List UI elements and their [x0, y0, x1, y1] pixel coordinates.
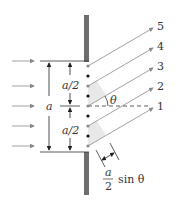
path-diff-denominator: 2: [105, 180, 112, 193]
angle-arc: [105, 96, 108, 106]
ray-label-1: 1: [157, 100, 164, 113]
ray-label-3: 3: [157, 60, 164, 73]
label-half-upper: a/2: [62, 79, 79, 92]
label-half-lower: a/2: [62, 124, 79, 137]
path-diff-arrow: [102, 153, 114, 160]
ray-label-4: 4: [157, 40, 164, 53]
path-diff-numerator: a: [105, 166, 112, 179]
incident-waves: [12, 61, 34, 146]
label-theta: θ: [110, 94, 117, 107]
upper-wall: [84, 15, 89, 62]
path-diff-tick-2: [110, 143, 119, 160]
lower-wall: [84, 152, 89, 195]
ray-label-2: 2: [157, 80, 164, 93]
label-a: a: [46, 100, 53, 113]
path-diff-sin: sin θ: [118, 173, 145, 186]
diffraction-diagram: a a/2 a/2 θ 5 4 3 2 1 a 2: [0, 0, 175, 206]
path-diff-tick-1: [96, 150, 105, 167]
ray-label-5: 5: [157, 20, 164, 33]
